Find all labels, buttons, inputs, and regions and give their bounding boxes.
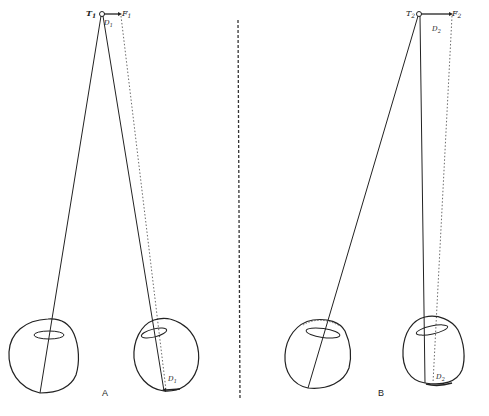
line-of-sight-right-eye-a bbox=[103, 16, 164, 391]
panel-a: T1 F1 D1 D1 A bbox=[9, 8, 199, 398]
label-f2: F2 bbox=[451, 9, 462, 19]
lens-left-eye-b bbox=[306, 326, 341, 340]
panel-label-b: B bbox=[378, 388, 384, 398]
panel-divider bbox=[238, 20, 240, 400]
retinal-disparity-arrow-a bbox=[166, 389, 180, 390]
label-f1: F1 bbox=[121, 9, 131, 19]
fixation-line-b bbox=[433, 16, 452, 383]
left-eye-a bbox=[9, 319, 79, 393]
target-point-t1 bbox=[100, 12, 105, 17]
label-t1: T1 bbox=[86, 8, 96, 19]
fixation-line-a bbox=[121, 16, 166, 390]
label-d1-top: D1 bbox=[103, 19, 113, 28]
label-d2-top: D2 bbox=[431, 25, 441, 34]
line-of-sight-left-eye-b bbox=[308, 16, 418, 388]
panel-label-a: A bbox=[102, 388, 108, 398]
line-of-sight-left-eye-a bbox=[40, 16, 101, 393]
binocular-disparity-diagram: T1 F1 D1 D1 A T2 F2 D2 D2 B bbox=[0, 0, 489, 416]
target-point-t2 bbox=[417, 12, 422, 17]
label-d1-retina: D1 bbox=[167, 375, 177, 384]
lens-right-eye-b bbox=[416, 323, 449, 337]
label-t2: T2 bbox=[406, 9, 415, 19]
panel-b: T2 F2 D2 D2 B bbox=[285, 9, 464, 398]
label-d2-retina: D2 bbox=[435, 373, 445, 382]
